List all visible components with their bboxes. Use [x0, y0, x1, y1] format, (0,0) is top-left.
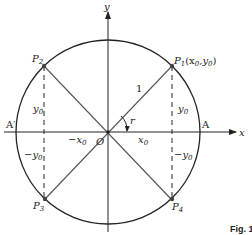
unit-circle-diagram: y x A A′ O 1 r P1(x0,y0) P2 P3 P4 y0 y0 …: [0, 0, 252, 235]
label-p2: P2: [31, 53, 44, 66]
label-origin: O: [96, 136, 104, 147]
label-y0-right: y0: [177, 103, 189, 116]
figure-caption: Fig. 1: [230, 224, 252, 234]
label-neg-y0-left: −y0: [24, 149, 43, 162]
label-x0: x0: [138, 134, 149, 147]
label-p4: P4: [171, 201, 183, 214]
label-neg-x0: −x0: [68, 134, 87, 147]
label-radius: 1: [136, 83, 142, 94]
label-angle: r: [130, 115, 136, 126]
label-a: A: [201, 119, 210, 130]
label-y0-left: y0: [32, 103, 44, 116]
label-neg-y0-right: −y0: [174, 149, 193, 162]
y-axis-label: y: [103, 1, 110, 12]
label-p3: P3: [32, 200, 45, 213]
point-p3: [43, 197, 47, 201]
origin-point: [106, 130, 110, 134]
label-a-prime: A′: [5, 119, 16, 130]
x-axis-label: x: [239, 127, 245, 138]
label-p1: P1(x0,y0): [173, 55, 217, 68]
